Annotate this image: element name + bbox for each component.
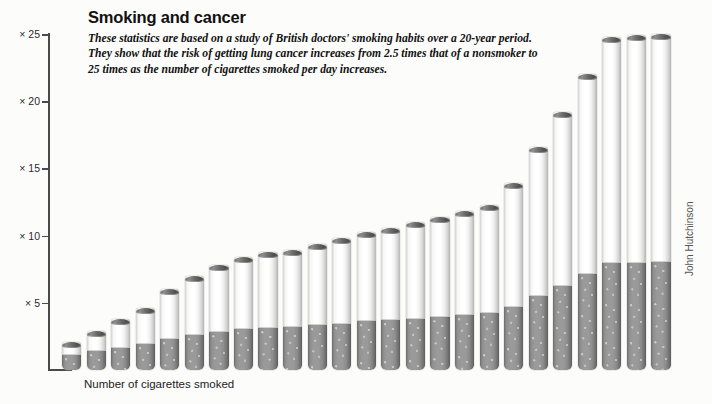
- cigarette-filter: [160, 338, 179, 370]
- cigarette-filter: [258, 327, 277, 370]
- cigarette-filter-seam: [258, 327, 277, 328]
- cigarette-filter: [111, 347, 130, 370]
- cigarette-filter: [455, 314, 474, 370]
- cigarette-filter-seam: [578, 273, 597, 274]
- cigarette-bar: [87, 331, 106, 370]
- cigarette-bar: [209, 265, 228, 370]
- cigarette-filter: [136, 343, 155, 370]
- cigarette-tip: [529, 147, 548, 153]
- cigarette-tip: [602, 37, 621, 43]
- cigarette-filter-seam: [529, 295, 548, 296]
- cigarette-filter-seam: [430, 316, 449, 317]
- cigarette-bar: [480, 205, 499, 370]
- cigarette-bar: [62, 342, 81, 370]
- cigarette-tip: [627, 35, 646, 41]
- cigarette-filter-seam: [357, 320, 376, 321]
- cigarette-bar: [602, 37, 621, 370]
- cigarette-bar: [406, 222, 425, 370]
- cigarette-tip: [480, 205, 499, 211]
- cigarette-tip: [209, 265, 228, 271]
- cigarette-tip: [136, 308, 155, 314]
- cigarette-tip: [62, 342, 81, 348]
- cigarette-bar: [430, 217, 449, 370]
- cigarette-tip: [504, 183, 523, 189]
- cigarette-tip: [258, 252, 277, 258]
- cigarette-filter: [480, 312, 499, 370]
- cigarette-tip: [578, 74, 597, 80]
- cigarette-filter: [578, 273, 597, 370]
- cigarette-filter-seam: [504, 306, 523, 307]
- cigarette-tip: [308, 244, 327, 250]
- cigarette-bar: [357, 232, 376, 370]
- cigarette-filter-seam: [381, 319, 400, 320]
- cigarette-bar: [381, 228, 400, 370]
- cigarette-filter-seam: [406, 318, 425, 319]
- cigarette-filter: [185, 334, 204, 370]
- cigarette-filter: [529, 295, 548, 370]
- cigarette-filter: [332, 323, 351, 371]
- cigarette-filter-seam: [602, 262, 621, 263]
- cigarette-bar: [332, 238, 351, 370]
- cigarette-filter-seam: [87, 350, 106, 351]
- cigarette-filter-seam: [283, 326, 302, 327]
- cigarette-filter-seam: [185, 334, 204, 335]
- cigarette-filter: [357, 320, 376, 370]
- cigarette-bar: [283, 250, 302, 370]
- cigarette-filter: [651, 261, 670, 370]
- cigarette-tip: [381, 228, 400, 234]
- cigarette-tip: [332, 238, 351, 244]
- cigarette-bar: [111, 319, 130, 370]
- cigarette-bar: [529, 147, 548, 370]
- cigarette-filter: [627, 262, 646, 370]
- cigarette-filter: [553, 285, 572, 370]
- cigarette-filter-seam: [627, 262, 646, 263]
- cigarette-filter: [87, 350, 106, 370]
- cigarette-filter: [430, 316, 449, 370]
- cigarette-bar: [578, 74, 597, 370]
- cigarette-bar: [160, 289, 179, 370]
- cigarette-tip: [111, 319, 130, 325]
- cigarette-bar: [185, 276, 204, 370]
- cigarette-filter-seam: [62, 354, 81, 355]
- cigarette-tip: [406, 222, 425, 228]
- infographic-canvas: Smoking and cancer These statistics are …: [0, 0, 712, 404]
- cigarette-filter: [209, 331, 228, 370]
- cigarette-bar: [258, 252, 277, 370]
- cigarette-bar: [455, 211, 474, 370]
- cigarette-filter: [504, 306, 523, 370]
- cigarette-bar: [308, 244, 327, 370]
- cigarette-filter-seam: [332, 323, 351, 324]
- cigarette-filter: [406, 318, 425, 370]
- cigarette-tip: [283, 250, 302, 256]
- cigarette-bar: [504, 183, 523, 370]
- cigarette-bar: [234, 257, 253, 370]
- cigarette-filter: [62, 354, 81, 370]
- cigarette-tip: [430, 217, 449, 223]
- cigarette-filter-seam: [234, 328, 253, 329]
- cigarette-filter-seam: [209, 331, 228, 332]
- cigarette-bar: [651, 34, 670, 370]
- cigarette-tip: [185, 276, 204, 282]
- cigarette-filter-seam: [136, 343, 155, 344]
- cigarette-bar: [136, 308, 155, 370]
- cigarette-tip: [553, 112, 572, 118]
- cigarette-tip: [87, 331, 106, 337]
- cigarette-filter: [381, 319, 400, 370]
- cigarette-filter-seam: [651, 261, 670, 262]
- cigarette-filter: [602, 262, 621, 370]
- cigarette-filter-seam: [111, 347, 130, 348]
- cigarette-tip: [160, 289, 179, 295]
- cigarette-filter-seam: [553, 285, 572, 286]
- cigarette-filter: [283, 326, 302, 370]
- cigarette-bar: [627, 35, 646, 370]
- cigarette-filter-seam: [455, 314, 474, 315]
- cigarette-filter-seam: [308, 324, 327, 325]
- cigarette-tip: [651, 34, 670, 40]
- cigarette-tip: [234, 257, 253, 263]
- cigarette-filter: [234, 328, 253, 370]
- cigarette-tip: [455, 211, 474, 217]
- cigarette-filter-seam: [160, 338, 179, 339]
- cigarette-filter: [308, 324, 327, 370]
- cigarette-bars: [0, 0, 712, 404]
- cigarette-filter-seam: [480, 312, 499, 313]
